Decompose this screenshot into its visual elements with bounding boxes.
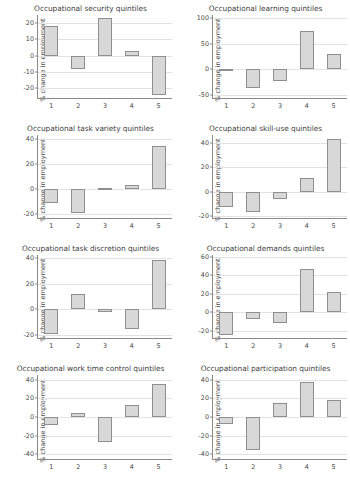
plot-inner: -20020406012345: [213, 255, 347, 338]
bar: [300, 382, 314, 417]
y-tick-label: 40: [26, 135, 34, 143]
x-tick-label: 1: [224, 463, 228, 471]
bar: [125, 51, 139, 56]
y-tick-label: 40: [26, 376, 34, 384]
gridline: [38, 214, 172, 215]
y-axis-line: [37, 15, 38, 98]
y-tick-label: 40: [26, 254, 34, 262]
plot-inner: -20-100102012345: [38, 15, 172, 98]
bar: [246, 192, 260, 212]
bar: [327, 54, 341, 70]
y-tick-label: 0: [30, 52, 34, 60]
x-tick-label: 1: [224, 342, 228, 350]
x-tick-label: 3: [103, 102, 107, 110]
x-tick-label: 1: [49, 222, 53, 230]
chart-title: Occupational task discretion quintiles: [8, 244, 173, 253]
x-tick-label: 2: [251, 463, 255, 471]
chart-title: Occupational work time control quintiles: [8, 364, 173, 373]
bar: [98, 417, 112, 442]
gridline: [38, 380, 172, 381]
plot-inner: -5005010012345: [213, 15, 347, 98]
x-tick-label: 5: [332, 102, 336, 110]
chart-panel: Occupational task variety quintiles% cha…: [0, 120, 175, 240]
gridline: [213, 216, 347, 217]
bar: [273, 69, 287, 81]
y-axis-line: [212, 15, 213, 98]
x-tick-label: 4: [130, 102, 134, 110]
bar: [71, 189, 85, 213]
chart-panel: Occupational participation quintiles% ch…: [175, 360, 350, 481]
plot-area: -5005010012345: [213, 15, 347, 98]
x-tick-label: 5: [157, 463, 161, 471]
chart-title: Occupational task variety quintiles: [8, 124, 173, 133]
bar: [125, 309, 139, 328]
x-tick-label: 3: [103, 463, 107, 471]
bar: [152, 260, 166, 309]
y-tick-label: 20: [201, 163, 209, 171]
x-tick-label: 2: [251, 222, 255, 230]
y-tick-label: 0: [205, 308, 209, 316]
plot-inner: -200204012345: [38, 255, 172, 338]
bar: [152, 384, 166, 417]
x-tick-label: 5: [332, 222, 336, 230]
plot-inner: -40-200204012345: [38, 375, 172, 459]
gridline: [38, 258, 172, 259]
y-tick-label: 0: [205, 65, 209, 73]
gridline: [213, 436, 347, 437]
chart-panel: Occupational demands quintiles% change i…: [175, 240, 350, 360]
x-axis-line: [37, 98, 172, 99]
x-tick-label: 2: [251, 102, 255, 110]
chart-panel: Occupational task discretion quintiles% …: [0, 240, 175, 360]
bar: [98, 309, 112, 312]
gridline: [213, 380, 347, 381]
y-tick-label: -20: [24, 210, 34, 218]
y-tick-label: 0: [205, 413, 209, 421]
x-tick-label: 2: [76, 222, 80, 230]
y-tick-label: -20: [24, 84, 34, 92]
chart-panel: Occupational skill-use quintiles% change…: [175, 120, 350, 240]
chart-grid: Occupational security quintiles% change …: [0, 0, 350, 481]
x-axis-line: [212, 98, 347, 99]
bar: [327, 292, 341, 312]
x-tick-label: 5: [332, 463, 336, 471]
y-tick-label: 0: [30, 413, 34, 421]
gridline: [213, 257, 347, 258]
bar: [152, 146, 166, 189]
y-tick-label: -20: [199, 212, 209, 220]
x-tick-label: 2: [76, 463, 80, 471]
y-axis-line: [212, 255, 213, 338]
bar: [98, 18, 112, 55]
x-tick-label: 4: [305, 102, 309, 110]
x-tick-label: 1: [49, 102, 53, 110]
plot-inner: -200204012345: [213, 135, 347, 218]
plot-area: -200204012345: [213, 135, 347, 218]
gridline: [213, 275, 347, 276]
bar: [71, 413, 85, 417]
x-tick-label: 2: [76, 102, 80, 110]
plot-area: -20-100102012345: [38, 15, 172, 98]
x-tick-label: 4: [305, 342, 309, 350]
y-tick-label: -20: [199, 327, 209, 335]
bar: [246, 312, 260, 318]
y-tick-label: 20: [201, 290, 209, 298]
y-tick-label: 50: [201, 40, 209, 48]
y-axis-line: [37, 135, 38, 218]
y-axis-line: [37, 255, 38, 338]
bar: [246, 417, 260, 450]
bar: [44, 189, 58, 203]
bar: [219, 192, 233, 208]
y-tick-label: 20: [201, 394, 209, 402]
x-tick-label: 3: [278, 463, 282, 471]
chart-title: Occupational demands quintiles: [183, 244, 348, 253]
x-tick-label: 1: [49, 342, 53, 350]
bar: [71, 56, 85, 69]
bar: [246, 69, 260, 88]
bar: [44, 417, 58, 425]
y-tick-label: 0: [30, 305, 34, 313]
x-tick-label: 2: [76, 342, 80, 350]
x-tick-label: 5: [157, 342, 161, 350]
plot-area: -200204012345: [38, 255, 172, 338]
y-tick-label: 40: [201, 376, 209, 384]
y-tick-label: 20: [26, 19, 34, 27]
bar: [125, 185, 139, 189]
